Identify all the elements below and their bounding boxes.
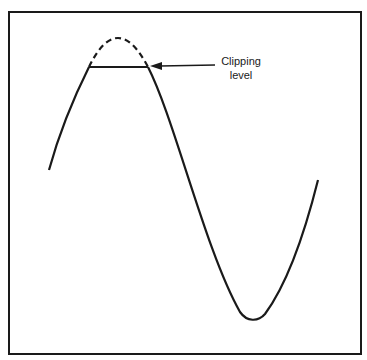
clipping-level-label: Clipping level <box>215 54 267 82</box>
label-line-1: Clipping <box>215 54 267 68</box>
label-line-2: level <box>215 68 267 82</box>
waveform-rising <box>49 67 89 170</box>
annotation-arrow-line <box>160 65 215 66</box>
waveform-falling-trough <box>148 67 318 320</box>
unclipped-peak-dashed <box>89 38 148 67</box>
arrow-head-icon <box>150 62 162 70</box>
waveform-graphic <box>0 0 367 360</box>
